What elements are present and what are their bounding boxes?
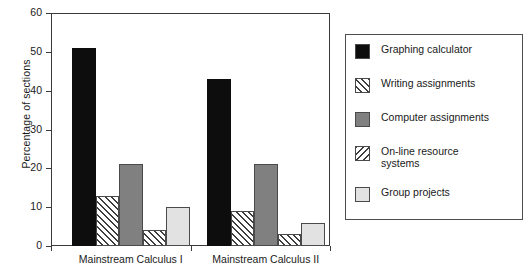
legend-swatch-icon (355, 187, 370, 202)
bar (301, 223, 325, 246)
bar (96, 196, 120, 246)
legend-swatch-icon (355, 112, 370, 127)
y-tick-label: 30 (2, 124, 42, 134)
bar (143, 230, 167, 246)
y-tick-label: 0 (2, 240, 42, 250)
legend-item[interactable]: Computer assignments (355, 112, 489, 127)
legend-item-label: On-line resource systems (381, 146, 459, 169)
x-axis-group-label: Mainstream Calculus II (196, 253, 336, 265)
legend-item-label: Computer assignments (381, 112, 489, 124)
bar (231, 211, 255, 246)
x-tick-mark (51, 246, 52, 251)
bar (119, 164, 143, 246)
legend-item-label: Graphing calculator (381, 44, 472, 56)
legend-swatch-icon (355, 44, 370, 59)
bar (254, 164, 278, 246)
legend-box: Graphing calculatorWriting assignmentsCo… (345, 34, 523, 220)
y-tick-label: 60 (2, 7, 42, 17)
legend-item-label: Group projects (381, 187, 450, 199)
bar-chart-figure: Percentage of sections 6050403020100 Mai… (0, 0, 528, 278)
y-tick-label: 10 (2, 201, 42, 211)
bar (207, 79, 231, 246)
y-tick-label: 50 (2, 46, 42, 56)
legend-swatch-icon (355, 78, 370, 93)
legend-swatch-icon (355, 146, 370, 161)
legend-item[interactable]: On-line resource systems (355, 146, 459, 169)
legend-item[interactable]: Graphing calculator (355, 44, 472, 59)
legend-item[interactable]: Group projects (355, 187, 450, 202)
bar (72, 48, 96, 246)
y-axis: 6050403020100 (0, 0, 51, 260)
y-tick-label: 20 (2, 162, 42, 172)
x-tick-mark (191, 246, 192, 251)
bar (278, 234, 302, 246)
x-tick-mark (330, 246, 331, 251)
y-tick-label: 40 (2, 85, 42, 95)
bar (166, 207, 190, 246)
x-axis-group-label: Mainstream Calculus I (61, 253, 201, 265)
legend-item[interactable]: Writing assignments (355, 78, 475, 93)
bars-layer (51, 13, 330, 246)
legend-item-label: Writing assignments (381, 78, 475, 90)
